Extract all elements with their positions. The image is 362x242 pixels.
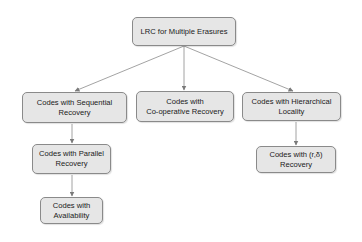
node-cooperative-recovery: Codes with Co-operative Recovery xyxy=(136,91,234,122)
node-parallel-recovery: Codes with Parallel Recovery xyxy=(32,144,111,174)
edge-root-hierarchical xyxy=(184,46,293,91)
node-lrc-multiple-erasures: LRC for Multiple Erasures xyxy=(132,17,236,46)
node-label: LRC for Multiple Erasures xyxy=(141,27,228,37)
node-label: Codes with Hierarchical Locality xyxy=(252,97,332,117)
diagram-canvas: LRC for Multiple Erasures Codes with Seq… xyxy=(0,0,362,242)
node-label: Codes with (r,δ) Recovery xyxy=(269,150,322,170)
node-label: Codes with Parallel Recovery xyxy=(39,149,104,169)
node-availability: Codes with Availability xyxy=(40,197,103,224)
edge-root-sequential xyxy=(75,46,184,91)
node-label: Codes with Sequential Recovery xyxy=(37,98,113,118)
node-hierarchical-locality: Codes with Hierarchical Locality xyxy=(242,92,341,121)
node-label: Codes with Co-operative Recovery xyxy=(146,97,224,117)
node-r-delta-recovery: Codes with (r,δ) Recovery xyxy=(256,146,336,173)
node-label: Codes with Availability xyxy=(53,201,91,221)
node-sequential-recovery: Codes with Sequential Recovery xyxy=(22,92,127,123)
